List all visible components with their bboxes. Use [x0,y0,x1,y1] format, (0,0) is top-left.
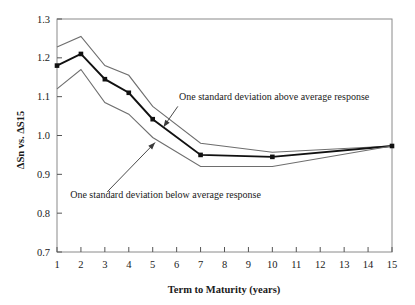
y-axis-title: ΔSn vs. ΔS15 [15,111,26,169]
y-tick-label: 1.3 [37,14,50,25]
y-tick-label: 0.8 [37,208,50,219]
data-point-marker [55,63,60,68]
annotation-label-2: One standard deviation below average res… [70,189,261,200]
x-tick-label: 11 [291,259,301,270]
x-tick-label: 13 [339,259,350,270]
y-tick-label: 0.9 [37,169,50,180]
x-tick-label: 8 [222,259,227,270]
x-tick-label: 7 [198,259,203,270]
data-point-marker [150,117,155,122]
y-tick-label: 1.0 [37,130,50,141]
x-tick-label: 9 [246,259,251,270]
x-tick-label: 5 [150,259,155,270]
data-point-marker [79,52,84,57]
x-axis-tick-labels: 123456789101112131415 [54,259,397,270]
data-point-marker [126,90,131,95]
x-tick-label: 6 [174,259,179,270]
x-tick-label: 1 [54,259,59,270]
x-tick-label: 10 [267,259,278,270]
y-tick-label: 1.2 [37,52,50,63]
x-tick-label: 15 [387,259,398,270]
x-tick-label: 2 [78,259,83,270]
data-point-marker [390,144,395,149]
line-chart: 0.70.80.91.01.11.21.3 123456789101112131… [0,0,415,305]
x-tick-label: 14 [363,259,374,270]
chart-figure: 0.70.80.91.01.11.21.3 123456789101112131… [0,0,415,305]
x-tick-label: 12 [315,259,326,270]
y-tick-label: 0.7 [37,247,50,258]
x-axis-title: Term to Maturity (years) [168,284,281,296]
x-tick-label: 3 [102,259,107,270]
x-tick-label: 4 [126,259,132,270]
y-tick-label: 1.1 [37,91,50,102]
data-point-marker [103,77,108,82]
data-point-marker [198,153,203,158]
data-point-marker [270,155,275,160]
annotation-label-1: One standard deviation above average res… [179,91,370,102]
